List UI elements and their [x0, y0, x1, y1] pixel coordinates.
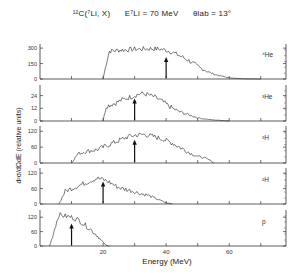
spectrum-line — [72, 133, 214, 163]
panel-label: p — [262, 218, 266, 226]
svg-text:120: 120 — [28, 214, 37, 220]
x-tick-label: 40 — [163, 249, 170, 255]
svg-text:0: 0 — [34, 160, 37, 166]
panel-3: 060120²H — [28, 168, 286, 207]
svg-text:300: 300 — [28, 45, 37, 51]
svg-text:60: 60 — [31, 229, 37, 235]
panel-0: 0150300⁴He — [28, 44, 286, 82]
panel-label: ⁴He — [262, 51, 273, 58]
svg-text:120: 120 — [28, 170, 37, 176]
panel-label: ³He — [262, 93, 273, 100]
panel-label: ²H — [262, 176, 269, 183]
spectrum-line — [103, 47, 261, 79]
svg-text:12: 12 — [31, 105, 37, 111]
panel-label: ³H — [262, 134, 269, 141]
svg-text:60: 60 — [31, 186, 37, 192]
x-tick-label: 60 — [226, 249, 233, 255]
spectrum-line — [103, 92, 229, 121]
spectrum-line — [50, 213, 110, 246]
panel-4: 060120p — [28, 210, 286, 249]
spectrum-line — [59, 177, 173, 204]
panel-1: 01224³He — [31, 85, 286, 124]
svg-text:24: 24 — [31, 93, 37, 99]
svg-text:150: 150 — [28, 61, 37, 67]
panel-2: 060120³H — [28, 126, 286, 166]
svg-text:0: 0 — [34, 201, 37, 207]
svg-text:120: 120 — [28, 128, 37, 134]
svg-text:60: 60 — [31, 144, 37, 150]
svg-text:0: 0 — [34, 76, 37, 82]
svg-text:0: 0 — [34, 118, 37, 124]
svg-text:0: 0 — [34, 243, 37, 249]
x-tick-label: 20 — [100, 249, 107, 255]
spectra-plot: 0150300⁴He01224³He060120³H060120²H060120… — [0, 0, 304, 280]
